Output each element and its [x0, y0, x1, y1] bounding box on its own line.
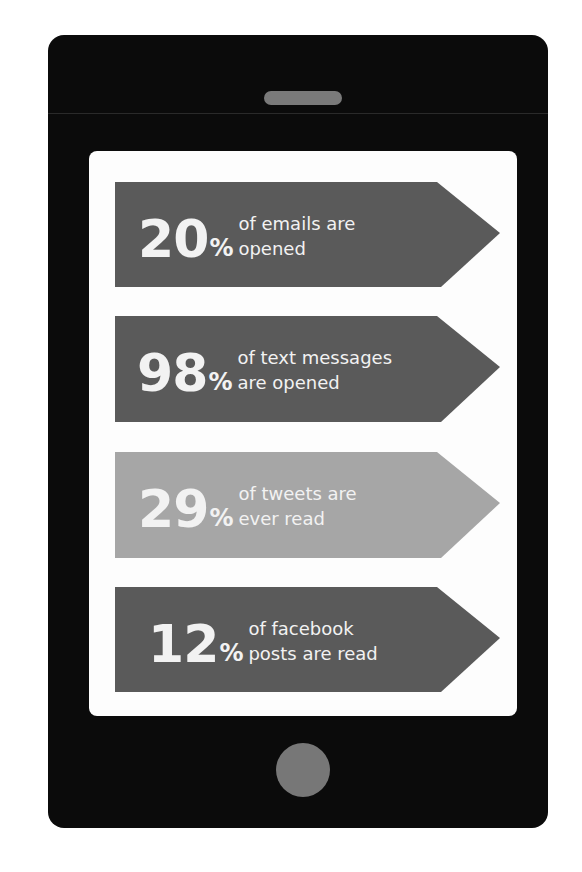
stat-banner-text-messages: 98 % of text messages are opened: [115, 316, 500, 421]
percent-sign: %: [219, 641, 243, 665]
percent-sign: %: [208, 370, 232, 394]
phone-device: 20 % of emails are opened 98 % of text m…: [48, 35, 548, 828]
caption-line-2: opened: [238, 236, 355, 261]
caption-line-2: are opened: [237, 370, 392, 395]
caption-line-2: posts are read: [248, 641, 377, 666]
stat-number: 20: [138, 213, 208, 265]
stat-banner-tweets: 29 % of tweets are ever read: [115, 452, 500, 557]
stat-caption: of text messages are opened: [237, 345, 392, 395]
caption-line-1: of text messages: [237, 345, 392, 370]
caption-line-1: of facebook: [248, 616, 377, 641]
percent-sign: %: [209, 506, 233, 530]
banner-content: 20 % of emails are opened: [115, 182, 458, 287]
home-button-icon: [276, 743, 330, 797]
speaker-slot-icon: [264, 91, 342, 105]
stat-caption: of tweets are ever read: [238, 481, 356, 531]
phone-seam-divider: [48, 113, 548, 114]
phone-screen: 20 % of emails are opened 98 % of text m…: [89, 151, 517, 716]
banner-content: 98 % of text messages are opened: [115, 316, 457, 421]
stat-number: 29: [138, 483, 208, 535]
stat-banner-emails: 20 % of emails are opened: [115, 182, 500, 287]
caption-line-1: of tweets are: [238, 481, 356, 506]
caption-line-1: of emails are: [238, 211, 355, 236]
percent-sign: %: [209, 236, 233, 260]
banner-content: 29 % of tweets are ever read: [115, 452, 458, 557]
banner-content: 12 % of facebook posts are read: [115, 587, 468, 692]
stat-number: 98: [137, 347, 207, 399]
stat-caption: of emails are opened: [238, 211, 355, 261]
stat-banner-facebook: 12 % of facebook posts are read: [115, 587, 500, 692]
caption-line-2: ever read: [238, 506, 356, 531]
stat-caption: of facebook posts are read: [248, 616, 377, 666]
stat-number: 12: [148, 618, 218, 670]
